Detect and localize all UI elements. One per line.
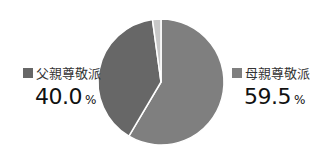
legend-father-respect: 父親尊敬派 40.0%: [23, 63, 101, 109]
legend-label-father: 父親尊敬派: [36, 63, 101, 82]
legend-value-mother: 59.5: [244, 84, 291, 109]
legend-swatch-father: [23, 68, 33, 78]
legend-mother-respect: 母親尊敬派 59.5%: [232, 63, 310, 109]
legend-swatch-mother: [232, 68, 242, 78]
legend-label-mother: 母親尊敬派: [245, 63, 310, 82]
percent-unit: %: [294, 93, 305, 107]
percent-unit: %: [85, 93, 96, 107]
legend-value-father: 40.0: [35, 84, 82, 109]
pie-slices: [98, 19, 224, 145]
